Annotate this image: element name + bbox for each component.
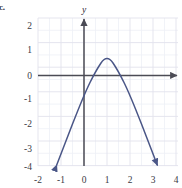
x-tick-label: 3 [151,175,156,185]
y-tick-label: -1 [24,94,32,104]
y-tick-label: -4 [24,162,32,172]
x-tick-label: -2 [34,175,42,185]
y-tick-label: -2 [24,119,32,129]
y-tick-label: 2 [27,21,32,31]
coordinate-plane: y 2 1 0 -1 -2 -3 -4 -2 -1 0 1 2 3 4 [0,0,182,188]
x-tick-label: -1 [57,175,65,185]
y-tick-label: 0 [27,71,32,81]
x-tick-label: 2 [128,175,133,185]
x-tick-label: 0 [82,175,87,185]
part-label: c. [0,2,8,12]
y-tick-label: 1 [27,45,32,55]
x-tick-label: 1 [105,175,110,185]
y-axis-label: y [81,5,87,15]
y-tick-label: -3 [24,144,32,154]
graph-figure: c. [0,0,182,188]
x-tick-label: 4 [174,175,179,185]
